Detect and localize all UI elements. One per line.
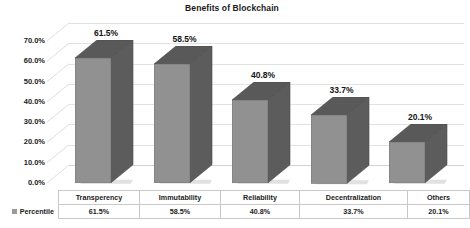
chart-title: Benefits of Blockchain <box>0 3 464 13</box>
bar-value-label: 58.5% <box>156 34 214 44</box>
data-table: TransperencyImmutabilityReliabilityDecen… <box>0 190 470 219</box>
bar-column <box>389 124 447 183</box>
plot-area: 61.5%58.5%40.8%33.7%20.1% <box>47 17 464 189</box>
table-header-cell: Decentralization <box>300 191 408 205</box>
table-header-cell: Others <box>408 191 470 205</box>
y-axis-tick-label: 10.0% <box>3 159 45 167</box>
y-axis-tick-label: 30.0% <box>3 118 45 126</box>
bar-value-label: 20.1% <box>391 112 449 122</box>
bar-column <box>311 97 369 183</box>
table-header-cell: Reliability <box>221 191 300 205</box>
table-row-values: Percentile 61.5%58.5%40.8%33.7%20.1% <box>0 205 470 219</box>
legend-label: Percentile <box>20 207 54 216</box>
bar-value-label: 40.8% <box>234 70 292 80</box>
plot-depth-wall <box>47 17 71 189</box>
table-header-cell: Transperency <box>59 191 140 205</box>
bar-column <box>75 40 133 183</box>
legend-entry: Percentile <box>0 205 59 219</box>
y-axis-tick-label: 40.0% <box>3 98 45 106</box>
table-value-cell: 33.7% <box>300 205 408 219</box>
gridline <box>69 23 464 24</box>
bar-value-label: 33.7% <box>313 85 371 95</box>
table-header-cell: Immutability <box>140 191 221 205</box>
table-value-cell: 61.5% <box>59 205 140 219</box>
table-row-header: TransperencyImmutabilityReliabilityDecen… <box>0 191 470 205</box>
y-axis: 70.0%60.0%50.0%40.0%30.0%20.0%10.0%0.0% <box>0 17 45 189</box>
table-value-cell: 40.8% <box>221 205 300 219</box>
y-axis-tick-label: 50.0% <box>3 78 45 86</box>
bar-column <box>232 82 290 183</box>
table-corner-cell <box>0 191 59 205</box>
legend-swatch-icon <box>12 209 17 214</box>
y-axis-tick-label: 60.0% <box>3 57 45 65</box>
y-axis-tick-label: 20.0% <box>3 138 45 146</box>
y-axis-tick-label: 70.0% <box>3 37 45 45</box>
table-value-cell: 58.5% <box>140 205 221 219</box>
bar-column <box>154 46 212 183</box>
y-axis-tick-label: 0.0% <box>3 179 45 187</box>
table-value-cell: 20.1% <box>408 205 470 219</box>
bar-value-label: 61.5% <box>77 28 135 38</box>
